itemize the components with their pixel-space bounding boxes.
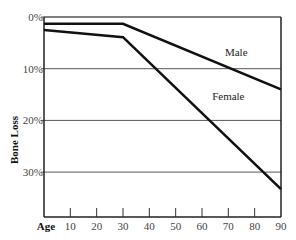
x-tick-label: 80	[249, 220, 261, 232]
y-axis-title: Bone Loss	[8, 115, 20, 164]
x-tick-label: 50	[170, 220, 182, 232]
x-tick-label: 70	[223, 220, 235, 232]
x-tick-label: 30	[118, 220, 130, 232]
labels: 0%10%20%30%102030405060708090MaleFemale	[23, 11, 287, 232]
x-axis-title: Age	[37, 220, 55, 232]
female-label: Female	[212, 90, 244, 102]
x-tick-label: 60	[197, 220, 209, 232]
y-tick-label: 20%	[23, 114, 43, 126]
x-tick-label: 40	[144, 220, 156, 232]
male-label: Male	[225, 46, 248, 58]
bone-loss-chart: 0%10%20%30%102030405060708090MaleFemale …	[0, 0, 296, 240]
y-tick-label: 0%	[28, 11, 43, 23]
x-tick-label: 10	[65, 220, 77, 232]
x-tick-label: 20	[91, 220, 103, 232]
y-tick-label: 30%	[23, 166, 43, 178]
y-tick-label: 10%	[23, 63, 43, 75]
x-tick-label: 90	[276, 220, 288, 232]
